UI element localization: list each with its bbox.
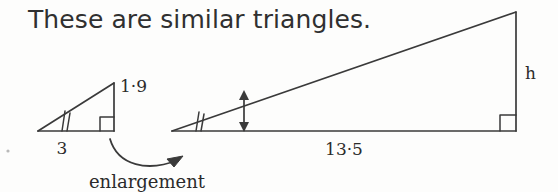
large-triangle-height-label: h bbox=[525, 63, 536, 83]
figure-canvas: These are similar triangles. 1·9 3 enlar… bbox=[0, 0, 558, 192]
small-triangle-hypotenuse-line bbox=[38, 83, 114, 131]
enlargement-label: enlargement bbox=[89, 171, 206, 192]
figure-title: These are similar triangles. bbox=[27, 5, 371, 34]
large-triangle-group: 13·5 h bbox=[172, 12, 536, 159]
large-triangle-inner-arrow-head-top-icon bbox=[239, 90, 249, 100]
large-triangle-right-angle-icon bbox=[500, 115, 516, 131]
small-triangle-angle-tick-2-icon bbox=[67, 113, 70, 131]
small-triangle-right-angle-icon bbox=[100, 117, 114, 131]
small-triangle-base-label: 3 bbox=[57, 138, 68, 158]
large-triangle-angle-tick-2-icon bbox=[201, 114, 204, 131]
small-triangle-group: 1·9 3 bbox=[38, 76, 147, 158]
scan-speck bbox=[6, 149, 9, 152]
enlargement-group: enlargement bbox=[89, 139, 206, 192]
enlargement-curved-arrow-icon bbox=[110, 139, 178, 166]
large-triangle-base-label: 13·5 bbox=[325, 139, 363, 159]
small-triangle-height-label: 1·9 bbox=[120, 76, 147, 96]
enlargement-arrow-head-icon bbox=[167, 156, 183, 167]
similar-triangles-figure: These are similar triangles. 1·9 3 enlar… bbox=[0, 0, 558, 192]
